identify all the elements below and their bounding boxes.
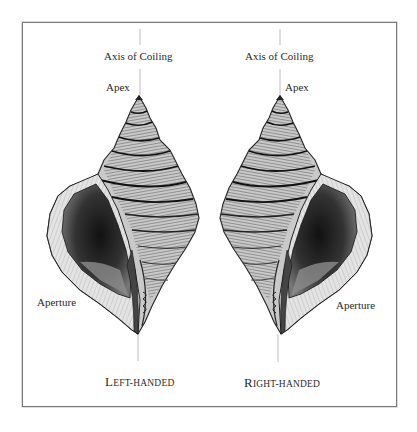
- right-handed-caption: RIGHT-HANDED: [244, 375, 320, 391]
- right-caption-rest: IGHT-HANDED: [253, 379, 320, 389]
- left-aperture-label: Aperture: [37, 296, 76, 308]
- right-axis-of-coiling-label: Axis of Coiling: [245, 50, 313, 62]
- left-caption-initial: L: [105, 374, 113, 389]
- left-apex-label: Apex: [106, 81, 130, 93]
- right-apex-label: Apex: [285, 81, 309, 93]
- right-aperture-label: Aperture: [336, 299, 375, 311]
- shell-illustration: [0, 0, 417, 432]
- left-handed-caption: LEFT-HANDED: [105, 374, 174, 390]
- right-caption-initial: R: [244, 375, 253, 390]
- left-axis-of-coiling-label: Axis of Coiling: [104, 50, 172, 62]
- left-caption-rest: EFT-HANDED: [113, 378, 174, 388]
